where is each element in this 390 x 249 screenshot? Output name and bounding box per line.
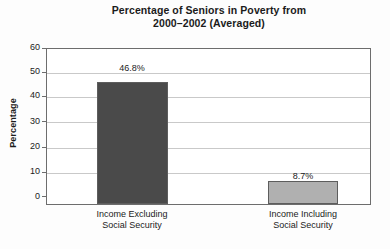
y-tick-label-60: 60 [0,42,40,52]
gridline-10 [47,173,370,174]
bar-income-excluding-social-security[interactable] [97,82,168,204]
bar-value-label-1: 8.7% [293,171,314,181]
category-label-0-line-2: Social Security [57,220,207,231]
category-label-1: Income Including Social Security [228,209,378,231]
y-tick-label-30: 30 [0,116,40,126]
y-tick-label-20: 20 [0,141,40,151]
chart-title-line-2: 2000–2002 (Averaged) [46,17,372,30]
category-label-1-line-2: Social Security [228,220,378,231]
category-label-1-line-1: Income Including [269,209,337,219]
y-tick-label-40: 40 [0,90,40,100]
category-label-0-line-1: Income Excluding [96,209,167,219]
y-tick-label-10: 10 [0,166,40,176]
plot-area [46,48,371,205]
chart-title-line-1: Percentage of Seniors in Poverty from [112,4,307,16]
gridline-40 [47,97,370,98]
bar-income-including-social-security[interactable] [268,181,338,204]
category-label-0: Income Excluding Social Security [57,209,207,231]
gridline-50 [47,73,370,74]
chart-screenshot: Percentage of Seniors in Poverty from 20… [0,0,390,249]
gridline-30 [47,122,370,123]
gridline-20 [47,148,370,149]
y-tick-label-0: 0 [0,191,40,201]
y-tick-label-50: 50 [0,66,40,76]
bar-value-label-0: 46.8% [119,63,145,73]
chart-title: Percentage of Seniors in Poverty from 20… [46,4,372,30]
